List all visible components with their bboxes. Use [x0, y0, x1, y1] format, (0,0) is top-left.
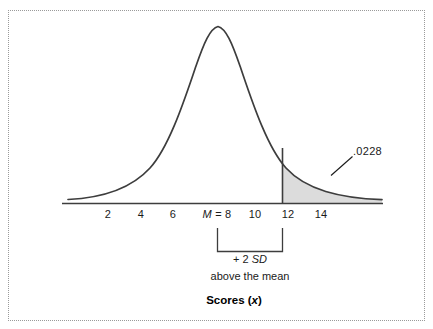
x-tick-label-4: 4 [138, 208, 144, 220]
sd-span-bracket [218, 228, 283, 252]
shaded-tail-area [282, 20, 383, 203]
x-tick-label-6: 6 [170, 208, 176, 220]
x-tick-label-2: 2 [105, 208, 111, 220]
axis-title-prefix: Scores ( [206, 294, 251, 306]
tail-probability-label: .0228 [353, 145, 382, 157]
sd-abbreviation: SD [252, 253, 267, 265]
x-tick-label-12: 12 [282, 208, 295, 220]
normal-curve [68, 27, 382, 200]
axis-title-suffix: ) [258, 294, 262, 306]
x-axis-title: Scores (x) [206, 294, 262, 306]
x-tick-label-14: 14 [315, 208, 328, 220]
sd-bracket-prefix: + 2 [233, 253, 252, 265]
mean-equals: = [212, 208, 225, 220]
sd-bracket-label-line2: above the mean [211, 270, 290, 282]
x-tick-label-mean-8: M = 8 [203, 208, 232, 220]
probability-leader-line [331, 157, 353, 176]
sd-bracket-label-line1: + 2 SD [233, 253, 267, 265]
figure-root: 2 4 6 M = 8 10 12 14 .0228 + 2 SD above … [0, 0, 433, 329]
mean-value: 8 [225, 208, 231, 220]
x-tick-label-10: 10 [249, 208, 262, 220]
mean-symbol: M [203, 208, 212, 220]
